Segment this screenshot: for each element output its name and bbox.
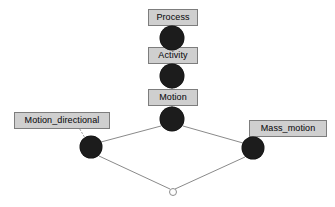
node-label-motion[interactable]: Motion xyxy=(148,89,198,106)
graph-node-junction[interactable] xyxy=(169,188,177,196)
graph-node-motion[interactable] xyxy=(160,107,184,131)
graph-node-activity[interactable] xyxy=(160,64,184,88)
graph-node-process[interactable] xyxy=(160,26,184,50)
graph-node-motion_directional[interactable] xyxy=(80,136,102,158)
diagram-canvas: ProcessActivityMotionMotion_directionalM… xyxy=(0,0,335,207)
edge-motion_directional-to-junction xyxy=(99,156,170,189)
graph-node-mass_motion[interactable] xyxy=(242,137,264,159)
edge-mass_motion-to-junction xyxy=(175,157,245,189)
edge-motion-to-mass_motion xyxy=(183,126,243,143)
node-label-mass_motion[interactable]: Mass_motion xyxy=(249,120,327,137)
node-label-motion_directional[interactable]: Motion_directional xyxy=(14,112,110,129)
edge-motion-to-motion_directional xyxy=(101,126,161,142)
node-label-process[interactable]: Process xyxy=(148,9,198,26)
